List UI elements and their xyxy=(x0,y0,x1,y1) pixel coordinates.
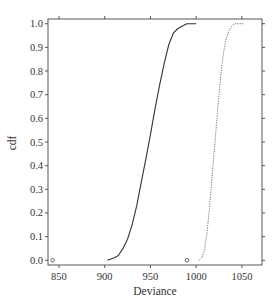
marker-group xyxy=(51,258,189,262)
y-tick-label: 0.4 xyxy=(30,160,44,171)
y-tick-label: 0.8 xyxy=(30,66,43,77)
y-tick-label: 0.9 xyxy=(30,42,43,53)
y-tick-label: 0.5 xyxy=(30,137,43,148)
x-tick-label: 1050 xyxy=(231,271,252,282)
series-dotted-line xyxy=(199,24,244,261)
series-solid-line xyxy=(107,24,196,261)
open-circle-marker xyxy=(185,258,189,262)
x-tick-label: 950 xyxy=(143,271,159,282)
y-tick-label: 0.2 xyxy=(30,207,43,218)
y-tick-label: 0.3 xyxy=(30,184,43,195)
plot-frame xyxy=(48,19,262,265)
open-circle-marker xyxy=(51,258,55,262)
x-axis: 85090095010001050 xyxy=(51,16,252,282)
plot-border xyxy=(48,19,262,265)
y-axis-label: cdf xyxy=(6,135,18,150)
x-axis-label: Deviance xyxy=(133,285,176,297)
cdf-chart: 0.00.10.20.30.40.50.60.70.80.91.0 850900… xyxy=(0,0,275,307)
series-group xyxy=(107,24,243,261)
x-tick-label: 900 xyxy=(97,271,113,282)
y-tick-label: 1.0 xyxy=(30,18,43,29)
y-tick-label: 0.1 xyxy=(30,231,43,242)
x-tick-label: 1000 xyxy=(186,271,207,282)
x-tick-label: 850 xyxy=(51,271,67,282)
y-tick-label: 0.0 xyxy=(30,255,43,266)
y-tick-label: 0.6 xyxy=(30,113,43,124)
y-axis: 0.00.10.20.30.40.50.60.70.80.91.0 xyxy=(30,18,265,266)
y-tick-label: 0.7 xyxy=(30,89,43,100)
